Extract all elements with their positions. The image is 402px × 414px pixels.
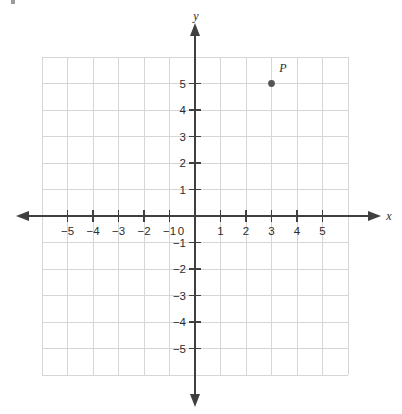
x-tick-label-2: 2 xyxy=(243,225,249,237)
coordinate-plane-figure: −5 −4 −3 −2 −1 1 2 3 4 5 0 5 4 3 2 1 −1 … xyxy=(0,0,402,414)
y-tick-label-neg1: −1 xyxy=(173,237,186,249)
y-tick-label-neg5: −5 xyxy=(173,343,186,355)
x-tick-label-5: 5 xyxy=(319,225,325,237)
x-axis-left-arrowhead xyxy=(16,211,29,221)
point-p-marker xyxy=(268,80,275,87)
x-axis xyxy=(16,211,381,221)
x-tick-label-4: 4 xyxy=(294,225,301,237)
x-tick-label-neg1: −1 xyxy=(163,225,176,237)
x-axis-right-arrowhead xyxy=(368,211,381,221)
origin-label: 0 xyxy=(178,225,184,237)
x-tick-label-neg5: −5 xyxy=(61,225,74,237)
x-axis-label: x xyxy=(385,209,392,223)
x-tick-label-neg2: −2 xyxy=(137,225,150,237)
y-axis-label: y xyxy=(192,9,199,23)
x-tick-label-3: 3 xyxy=(268,225,274,237)
x-tick-label-neg4: −4 xyxy=(86,225,100,237)
y-tick-label-3: 3 xyxy=(180,131,186,143)
y-axis-bottom-arrowhead xyxy=(190,394,200,407)
x-tick-label-1: 1 xyxy=(217,225,223,237)
x-tick-label-neg3: −3 xyxy=(112,225,125,237)
y-tick-label-5: 5 xyxy=(180,78,186,90)
y-tick-label-neg4: −4 xyxy=(173,316,187,328)
y-axis-top-arrowhead xyxy=(190,23,200,36)
y-tick-label-1: 1 xyxy=(180,184,186,196)
coordinate-plane-svg: −5 −4 −3 −2 −1 1 2 3 4 5 0 5 4 3 2 1 −1 … xyxy=(0,0,402,414)
x-axis-tick-labels: −5 −4 −3 −2 −1 1 2 3 4 5 xyxy=(61,225,326,237)
y-axis xyxy=(190,23,200,407)
y-tick-label-4: 4 xyxy=(180,104,187,116)
point-p-label: P xyxy=(278,61,287,75)
y-tick-label-neg2: −2 xyxy=(173,263,186,275)
y-tick-label-2: 2 xyxy=(180,157,186,169)
y-tick-label-neg3: −3 xyxy=(173,290,186,302)
top-left-scan-artifact xyxy=(11,0,15,4)
